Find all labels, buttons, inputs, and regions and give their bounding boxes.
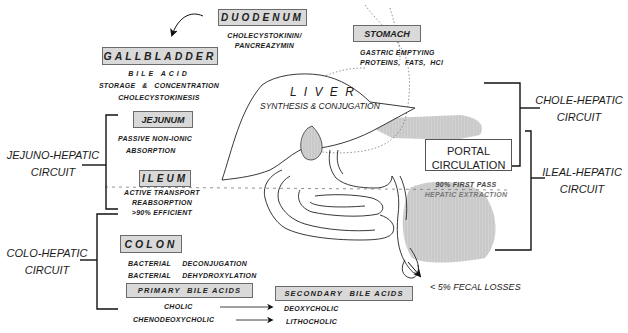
duodenum-desc: CHOLECYSTOKININ/ PANCREAZYMIN xyxy=(222,31,307,51)
ileum-box: ILEUM xyxy=(139,170,191,187)
colo-hepatic-bracket xyxy=(97,214,118,309)
jejuno-hepatic-bracket xyxy=(106,115,118,209)
gallbladder-box: GALLBLADDER xyxy=(102,47,218,65)
liver-subtitle: SYNTHESIS & CONJUGATION xyxy=(260,102,380,111)
secondary-bile-acids-box: SECONDARY BILE ACIDS xyxy=(275,286,413,301)
colon-title: COLON xyxy=(125,238,178,250)
stomach-title: STOMACH xyxy=(364,29,409,39)
jejunum-title: JEJUNUM xyxy=(141,115,184,125)
gallbladder-title: GALLBLADDER xyxy=(104,50,217,62)
liver-title: L I V E R xyxy=(290,86,356,98)
ileal-hepatic-circuit-label: ILEAL-HEPATIC CIRCUIT xyxy=(538,164,626,198)
gallbladder-desc: BILE ACID STORAGE & CONCENTRATION CHOLEC… xyxy=(84,68,234,104)
colon-desc: BACTERIAL DECONJUGATION BACTERIAL DEHYDR… xyxy=(128,258,257,282)
secondary-acid-deoxycholic: DEOXYCHOLIC xyxy=(284,305,339,312)
chole-hepatic-circuit-label: CHOLE-HEPATIC CIRCUIT xyxy=(532,92,626,126)
primary-acid-chenodeoxycholic: CHENODEOXYCHOLIC xyxy=(133,316,214,323)
intestine-outline xyxy=(264,150,418,278)
enterohepatic-circulation-diagram: DUODENUM CHOLECYSTOKININ/ PANCREAZYMIN G… xyxy=(0,0,628,333)
secondary-bile-acids-title: SECONDARY BILE ACIDS xyxy=(284,289,403,298)
stomach-box: STOMACH xyxy=(353,25,421,42)
jejunum-desc: PASSIVE NON-IONIC ABSORPTION xyxy=(118,133,203,157)
primary-bile-acids-title: PRIMARY BILE ACIDS xyxy=(138,286,242,295)
duodenum-title: DUODENUM xyxy=(221,12,304,23)
primary-acid-cholic: CHOLIC xyxy=(164,303,193,310)
colon-box: COLON xyxy=(120,235,182,253)
portal-circulation-box: PORTAL CIRCULATION xyxy=(425,139,512,171)
duodenum-box: DUODENUM xyxy=(218,9,307,26)
jejuno-hepatic-circuit-label: JEJUNO-HEPATIC CIRCUIT xyxy=(4,147,102,181)
primary-bile-acids-box: PRIMARY BILE ACIDS xyxy=(126,283,253,298)
colo-hepatic-circuit-label: COLO-HEPATIC CIRCUIT xyxy=(4,245,90,279)
secondary-acid-lithocholic: LITHOCHOLIC xyxy=(286,318,337,325)
stomach-desc: GASTRIC EMPTYING PROTEINS, FATS, HCl xyxy=(360,48,443,68)
portal-desc: 90% FIRST PASS HEPATIC EXTRACTION xyxy=(420,180,512,200)
jejunum-box: JEJUNUM xyxy=(133,111,193,128)
fecal-losses-label: < 5% FECAL LOSSES xyxy=(430,283,521,292)
ileum-desc: ACTIVE TRANSPORT REABSORPTION >90% EFFIC… xyxy=(118,188,206,218)
cck-arrow xyxy=(172,14,203,35)
ileum-title: ILEUM xyxy=(142,173,188,184)
portal-title-1: PORTAL xyxy=(426,144,511,158)
portal-title-2: CIRCULATION xyxy=(426,158,511,172)
